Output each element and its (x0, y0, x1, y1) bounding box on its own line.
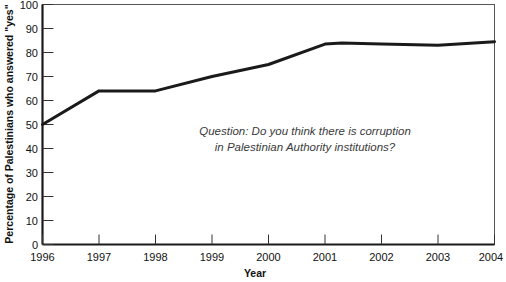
x-tick-labels: 1996 1997 1998 1999 2000 2001 2002 2003 … (30, 251, 503, 263)
y-tick-label: 10 (26, 215, 38, 227)
y-tick-label: 50 (26, 119, 38, 131)
y-tick-label: 70 (26, 71, 38, 83)
y-tick-label: 20 (26, 191, 38, 203)
x-tick-label: 1999 (200, 251, 224, 263)
annotation-line-2: in Palestinian Authority institutions? (215, 141, 396, 153)
x-tick-label: 1998 (143, 251, 167, 263)
annotation-line-1: Question: Do you think there is corrupti… (199, 125, 411, 137)
x-tick-label: 2001 (313, 251, 337, 263)
x-tick-label: 2000 (256, 251, 280, 263)
x-tick-label: 1997 (87, 251, 111, 263)
y-axis-title: Percentage of Palestinians who answered … (3, 4, 15, 243)
y-tick-label: 40 (26, 143, 38, 155)
y-tick-label: 80 (26, 47, 38, 59)
y-tick-label: 30 (26, 167, 38, 179)
x-tick-label: 2003 (426, 251, 450, 263)
x-tick-label: 2002 (369, 251, 393, 263)
y-tick-label: 100 (20, 0, 38, 11)
x-tick-label: 1996 (30, 251, 54, 263)
line-chart: 100 90 80 70 60 50 40 30 20 10 0 1996 (0, 0, 506, 282)
chart-figure: 100 90 80 70 60 50 40 30 20 10 0 1996 (0, 0, 506, 282)
y-tick-label: 90 (26, 23, 38, 35)
y-tick-labels: 100 90 80 70 60 50 40 30 20 10 0 (20, 0, 38, 251)
y-tick-label: 0 (32, 239, 38, 251)
x-axis-title: Year (244, 267, 266, 279)
x-tick-label: 2004 (479, 251, 503, 263)
y-tick-label: 60 (26, 95, 38, 107)
